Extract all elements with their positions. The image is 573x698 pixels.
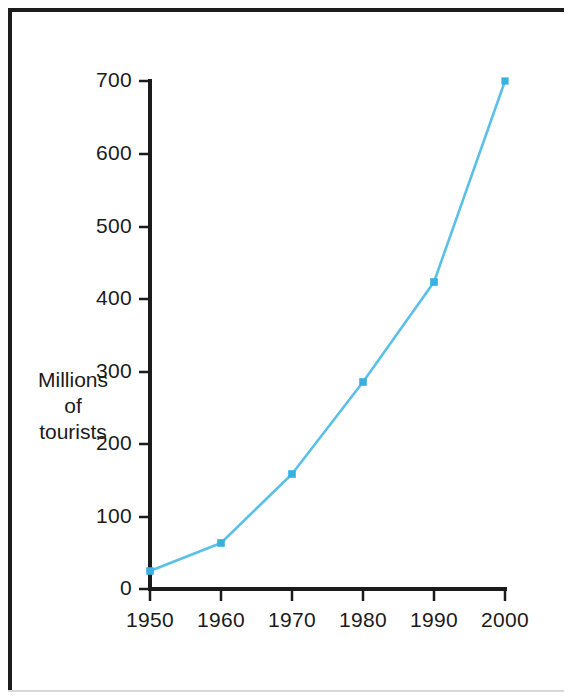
x-tick-label-1950: 1950: [110, 608, 190, 632]
y-axis-title: Millions of tourists: [14, 367, 132, 445]
data-point-1960: [217, 539, 225, 547]
y-axis-title-line-3: tourists: [14, 419, 132, 445]
y-tick-label-600: 600: [60, 141, 132, 165]
x-tick-label-1980: 1980: [323, 608, 403, 632]
x-tick-label-1990: 1990: [394, 608, 474, 632]
data-point-1980: [359, 378, 367, 386]
y-tick-label-100: 100: [60, 504, 132, 528]
line-chart: 700 600 500 400 300 200 100 0 1950 1960 …: [0, 0, 573, 698]
y-tick-label-400: 400: [60, 286, 132, 310]
data-point-1950: [146, 567, 154, 575]
data-point-2000: [501, 77, 508, 84]
data-series-line: [150, 81, 505, 571]
x-tick-label-1970: 1970: [252, 608, 332, 632]
y-tick-label-500: 500: [60, 214, 132, 238]
y-tick-label-0: 0: [60, 576, 132, 600]
y-tick-label-700: 700: [60, 68, 132, 92]
x-tick-label-2000: 2000: [465, 608, 545, 632]
data-point-1970: [288, 470, 296, 478]
data-point-1990: [430, 278, 438, 286]
x-tick-label-1960: 1960: [181, 608, 261, 632]
y-axis-title-line-1: Millions: [14, 367, 132, 393]
y-axis-title-line-2: of: [14, 393, 132, 419]
data-point-markers: [146, 77, 508, 574]
